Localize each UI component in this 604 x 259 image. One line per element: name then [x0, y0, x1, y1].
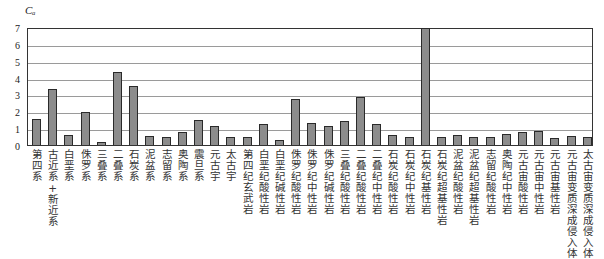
x-tick-label: 白垩系	[61, 149, 75, 182]
bar	[129, 86, 138, 145]
bar	[48, 89, 57, 145]
x-tick-label: 二叠纪中性岩	[369, 149, 383, 215]
bar	[356, 97, 365, 145]
x-tick-label: 震旦系	[191, 149, 205, 182]
bar	[421, 28, 430, 145]
bar	[275, 140, 284, 145]
x-tick-label: 石炭纪酸性岩	[385, 149, 399, 215]
x-tick-label: 元古宙酸性岩	[515, 149, 529, 215]
bar	[518, 132, 527, 145]
bar-chart: Cₐ 01234567 第四系古近系+新近系白垩系侏罗系三叠系二叠系石炭系泥盆系…	[0, 0, 604, 259]
y-tick-label: 3	[8, 90, 20, 101]
y-tick-label: 1	[8, 124, 20, 135]
x-tick-label: 志留系	[158, 149, 172, 182]
x-tick-label: 侏罗纪酸性岩	[288, 149, 302, 215]
bar	[583, 137, 592, 145]
bar	[81, 112, 90, 145]
y-tick-label: 6	[8, 39, 20, 50]
bar	[178, 132, 187, 145]
x-tick-label: 石炭纪超基性岩	[434, 149, 448, 226]
bar	[486, 137, 495, 145]
bar	[567, 136, 576, 145]
bar	[243, 137, 252, 145]
bar	[372, 124, 381, 145]
x-tick-label: 三叠系	[93, 149, 107, 182]
y-axis-unit-label: Cₐ	[25, 4, 36, 16]
bar	[534, 131, 543, 145]
x-tick-label: 泥盆系	[142, 149, 156, 182]
x-tick-label: 奥陶纪中性岩	[498, 149, 512, 215]
x-tick-label: 太古宙变质深成侵入体	[579, 149, 593, 259]
x-tick-label: 石炭纪基性岩	[417, 149, 431, 215]
x-tick-label: 奥陶系	[174, 149, 188, 182]
gridline	[28, 63, 592, 64]
x-tick-label: 侏罗系	[77, 149, 91, 182]
bar	[210, 126, 219, 145]
x-tick-label: 二叠系	[110, 149, 124, 182]
x-tick-label: 太古宇	[223, 149, 237, 182]
bar	[97, 142, 106, 145]
x-tick-label: 泥盆纪酸性岩	[450, 149, 464, 215]
x-tick-label: 古近系+新近系	[45, 149, 59, 227]
bar	[194, 120, 203, 145]
x-tick-label: 元古宙基性岩	[547, 149, 561, 215]
bar	[162, 137, 171, 145]
bar	[226, 137, 235, 145]
y-tick-label: 0	[8, 141, 20, 152]
y-tick-label: 4	[8, 73, 20, 84]
bar	[502, 134, 511, 145]
x-tick-label: 白垩纪酸性岩	[255, 149, 269, 215]
bar	[453, 135, 462, 145]
x-tick-label: 石炭系	[126, 149, 140, 182]
bar	[64, 135, 73, 145]
x-tick-label: 元古宙变质深成侵入体	[563, 149, 577, 259]
y-tick-label: 7	[8, 23, 20, 34]
y-tick-label: 2	[8, 107, 20, 118]
plot-area	[27, 28, 593, 146]
bar	[307, 123, 316, 145]
x-tick-label: 二叠纪酸性岩	[353, 149, 367, 215]
x-tick-label: 侏罗纪中性岩	[304, 149, 318, 215]
x-tick-label: 三叠纪酸性岩	[336, 149, 350, 215]
x-tick-label: 志留纪酸性岩	[482, 149, 496, 215]
bar	[550, 138, 559, 145]
bar	[259, 124, 268, 145]
y-tick-label: 5	[8, 56, 20, 67]
bar	[340, 121, 349, 145]
bar	[145, 136, 154, 145]
bar	[437, 137, 446, 145]
x-tick-label: 石炭纪中性岩	[401, 149, 415, 215]
bar	[388, 135, 397, 145]
bar	[324, 126, 333, 145]
x-tick-label: 元古宙中性岩	[531, 149, 545, 215]
bar	[32, 119, 41, 145]
x-tick-label: 泥盆纪超基性岩	[466, 149, 480, 226]
x-tick-label: 第四纪玄武岩	[239, 149, 253, 215]
bar	[405, 137, 414, 145]
bar	[113, 72, 122, 145]
bar	[469, 137, 478, 145]
x-tick-label: 元古宇	[207, 149, 221, 182]
x-tick-label: 白垩纪碱性岩	[272, 149, 286, 215]
x-tick-label: 侏罗纪碱性岩	[320, 149, 334, 215]
gridline	[28, 46, 592, 47]
x-tick-label: 第四系	[29, 149, 43, 182]
bar	[291, 99, 300, 145]
